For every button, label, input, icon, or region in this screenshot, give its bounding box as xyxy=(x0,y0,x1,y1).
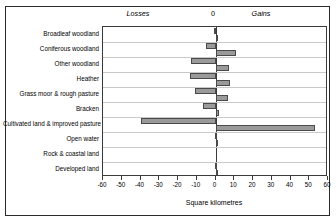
chart-figure: Losses 0 Gains Broadleaf woodlandConifer… xyxy=(0,0,336,223)
x-axis-tick-label: -20 xyxy=(172,180,181,189)
x-axis-tick-label: 60 xyxy=(323,180,330,189)
bar-loss xyxy=(203,103,215,109)
x-axis-tick-label: -10 xyxy=(191,180,200,189)
category-label: Cultivated land & improved pasture xyxy=(3,120,99,128)
bar-loss xyxy=(195,88,216,94)
category-label: Rock & coastal land xyxy=(3,150,99,158)
bar-loss xyxy=(191,58,215,64)
bar-loss xyxy=(190,73,215,79)
category-axis-labels: Broadleaf woodlandConiferous woodlandOth… xyxy=(0,26,99,176)
category-label: Coniferous woodland xyxy=(3,45,99,53)
x-axis: -60-50-40-30-20-100102030405060 xyxy=(102,176,327,198)
x-axis-tick-label: -60 xyxy=(97,180,106,189)
x-axis-tick-label: 20 xyxy=(248,180,255,189)
x-axis-tick-label: 0 xyxy=(213,180,217,189)
chart-header-annotations: Losses 0 Gains xyxy=(0,8,336,20)
category-label: Open water xyxy=(3,135,99,143)
bar-gain xyxy=(216,50,237,56)
bar-loss xyxy=(206,43,215,49)
bar-loss xyxy=(215,163,217,169)
losses-annotation: Losses xyxy=(127,8,150,20)
x-axis-tick-label: 40 xyxy=(286,180,293,189)
zero-annotation: 0 xyxy=(211,8,215,20)
x-axis-title: Square kilometres xyxy=(186,199,242,206)
bar-gain xyxy=(216,80,230,86)
bar-gain xyxy=(216,140,219,146)
x-axis-tick-label: -50 xyxy=(116,180,125,189)
category-label: Developed land xyxy=(3,165,99,173)
x-axis-tick-label: 50 xyxy=(305,180,312,189)
bar-loss xyxy=(215,133,217,139)
category-label: Heather xyxy=(3,75,99,83)
bar-gain xyxy=(216,95,228,101)
gains-annotation: Gains xyxy=(252,8,271,20)
bar-gain xyxy=(216,35,218,41)
plot-area xyxy=(102,26,327,176)
category-label: Other woodland xyxy=(3,60,99,68)
bar-gain xyxy=(216,65,229,71)
category-label: Bracken xyxy=(3,105,99,113)
x-axis-tick-label: -30 xyxy=(154,180,163,189)
category-label: Grass moor & rough pasture xyxy=(3,90,99,98)
bar-loss xyxy=(141,118,216,124)
bar-gain xyxy=(216,125,315,131)
band-separator xyxy=(103,147,327,148)
bar-gain xyxy=(216,110,220,116)
bar-loss xyxy=(214,28,216,34)
x-axis-tick-label: -40 xyxy=(135,180,144,189)
x-axis-tick-label: 30 xyxy=(267,180,274,189)
category-label: Broadleaf woodland xyxy=(3,30,99,38)
x-axis-tick-label: 10 xyxy=(230,180,237,189)
